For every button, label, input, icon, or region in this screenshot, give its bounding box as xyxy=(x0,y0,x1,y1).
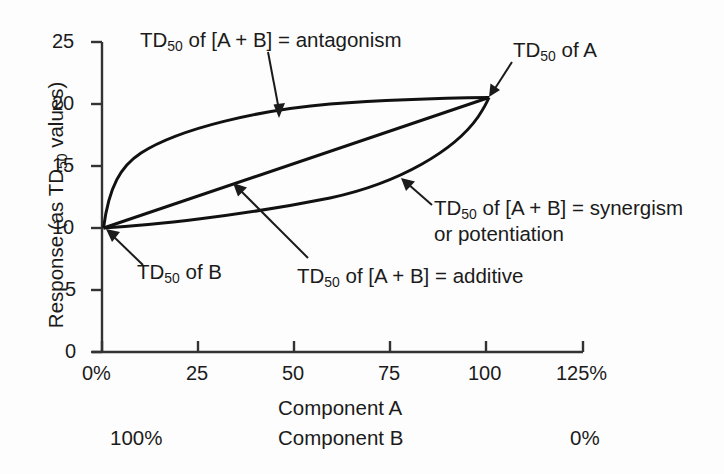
annotation-additive: TD50 of [A + B] = additive xyxy=(297,264,523,290)
annotation-td50-of-a-pre: TD xyxy=(513,38,540,61)
arrow-antagonism xyxy=(268,52,285,118)
component-b-left-endpoint-label: 100% xyxy=(110,426,162,450)
x-tick-label-0: 0% xyxy=(82,362,111,385)
y-axis-title-post: values) xyxy=(44,82,67,154)
annotation-synergism-pre: TD xyxy=(434,196,461,219)
annotation-td50-of-a-subscript: 50 xyxy=(540,48,556,64)
y-axis-title-pre: Response (as TD xyxy=(44,169,67,328)
annotation-td50-of-b-pre: TD xyxy=(137,260,164,283)
x-axis-title-component-b: Component B xyxy=(278,426,403,450)
x-axis-ticks xyxy=(102,341,583,352)
annotation-td50-of-b: TD50 of B xyxy=(137,260,222,286)
curve-additive xyxy=(104,98,490,229)
annotation-td50-of-b-subscript: 50 xyxy=(164,270,180,286)
y-axis-title: Response (as TD50 values) xyxy=(44,40,70,370)
x-axis-title-component-a: Component A xyxy=(278,396,402,420)
annotation-additive-subscript: 50 xyxy=(324,274,340,290)
arrow-synergism xyxy=(401,178,432,205)
annotation-additive-post: of [A + B] = additive xyxy=(340,264,523,287)
annotation-td50-of-a: TD50 of A xyxy=(513,38,597,64)
annotation-synergism-subscript: 50 xyxy=(461,206,477,222)
x-tick-label-50: 50 xyxy=(282,362,304,385)
annotation-td50-of-a-post: of A xyxy=(556,38,597,61)
annotation-antagonism-pre: TD xyxy=(140,28,167,51)
annotation-synergism-post: of [A + B] = synergism xyxy=(477,196,683,219)
y-axis-title-subscript: 50 xyxy=(54,154,70,170)
x-tick-label-125: 125% xyxy=(556,362,607,385)
y-axis-ticks xyxy=(91,42,102,352)
annotation-synergism-line2: or potentiation xyxy=(434,222,564,245)
component-b-right-endpoint-label: 0% xyxy=(570,426,600,450)
annotation-synergism: TD50 of [A + B] = synergismor potentiati… xyxy=(434,196,683,245)
x-tick-label-25: 25 xyxy=(186,362,208,385)
x-tick-label-100: 100 xyxy=(468,362,501,385)
arrow-additive xyxy=(233,183,308,258)
annotation-td50-of-b-post: of B xyxy=(180,260,222,283)
annotation-additive-pre: TD xyxy=(297,264,324,287)
arrow-td50-a xyxy=(489,62,512,97)
annotation-antagonism-post: of [A + B] = antagonism xyxy=(183,28,402,51)
annotation-antagonism: TD50 of [A + B] = antagonism xyxy=(140,28,402,54)
annotation-antagonism-subscript: 50 xyxy=(167,38,183,54)
x-tick-label-75: 75 xyxy=(378,362,400,385)
chart-figure: 25 20 15 10 5 0 0% 25 50 75 100 125% Res… xyxy=(0,0,724,474)
